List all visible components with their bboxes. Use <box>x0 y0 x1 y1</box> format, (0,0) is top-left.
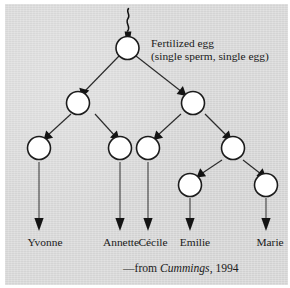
node-emilie <box>179 174 202 197</box>
edge-l2right-to-subtree-node <box>205 114 232 141</box>
name-label-cecile: Cécile <box>138 236 167 249</box>
name-label-annette: Annette <box>103 236 139 249</box>
fertilized-egg-label-line1: Fertilized egg <box>151 37 214 49</box>
name-label-yvonne: Yvonne <box>28 236 63 249</box>
edge-root-to-left <box>79 56 119 98</box>
node-yvonne <box>28 137 51 160</box>
name-label-emilie: Emilie <box>180 236 210 249</box>
edge-subtree-to-emilie-node <box>197 160 223 178</box>
stem-arrow-cecile <box>143 162 152 231</box>
stem-arrow-emilie <box>185 198 194 231</box>
figure-panel: Fertilized egg (single sperm, single egg… <box>5 4 288 285</box>
stem-arrow-annette <box>115 162 124 231</box>
stem-arrow-yvonne <box>34 162 43 231</box>
node-annette <box>109 137 132 160</box>
edge-l2right-to-cecile-node <box>154 114 182 140</box>
stem-arrow-marie <box>261 198 270 231</box>
fertilized-egg-label: Fertilized egg (single sperm, single egg… <box>151 37 269 64</box>
caption-prefix: —from <box>123 262 160 275</box>
node-cecile <box>137 137 160 160</box>
node-level2-right <box>182 92 205 115</box>
caption-source-name: Cummings <box>160 262 210 275</box>
name-label-marie: Marie <box>256 236 283 249</box>
edge-l2left-to-yvonne-node <box>44 114 72 140</box>
fertilized-egg-label-line2: (single sperm, single egg) <box>151 50 269 63</box>
source-caption: —from Cummings, 1994 <box>123 262 239 276</box>
caption-year: , 1994 <box>210 262 239 275</box>
node-level2-left <box>67 92 90 115</box>
node-fertilized-egg <box>116 37 139 60</box>
node-twin-split <box>222 137 245 160</box>
node-marie <box>255 174 278 197</box>
